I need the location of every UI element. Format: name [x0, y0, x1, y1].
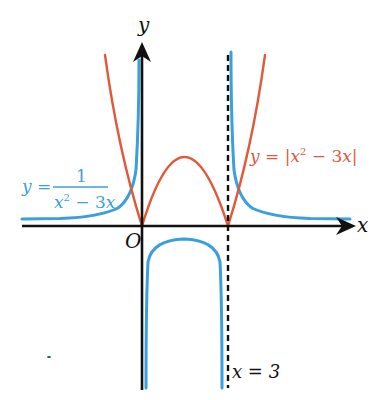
- reciprocal-curve: [22, 52, 350, 388]
- reciprocal-middle-branch: [146, 239, 222, 388]
- reciprocal-right-branch: [231, 52, 350, 219]
- x-axis-label: x: [357, 213, 368, 237]
- y-axis-label: y: [137, 13, 150, 37]
- asymptote-label: x = 3: [232, 361, 280, 382]
- origin-label: O: [125, 229, 141, 253]
- reciprocal-label-denominator: x2 − 3x: [54, 192, 116, 212]
- reciprocal-label-numerator: 1: [76, 166, 87, 186]
- reciprocal-label: y = 1 x2 − 3x: [21, 166, 116, 212]
- abs-quadratic-curve: [105, 55, 265, 226]
- speck-mark: [47, 356, 51, 358]
- function-graph: y x O x = 3 y = |x2 − 3x| y = 1 x2 − 3x: [0, 0, 376, 400]
- abs-quadratic-hump: [142, 157, 228, 226]
- reciprocal-label-prefix: y =: [21, 176, 51, 196]
- abs-quadratic-label: y = |x2 − 3x|: [249, 146, 358, 166]
